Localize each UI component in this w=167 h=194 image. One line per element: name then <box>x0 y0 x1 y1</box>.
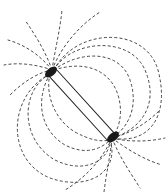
magnet-body <box>49 69 116 141</box>
magnetic-field-illustration <box>0 0 167 194</box>
bar-magnet <box>43 64 121 144</box>
field-lines-drawing <box>0 0 167 194</box>
